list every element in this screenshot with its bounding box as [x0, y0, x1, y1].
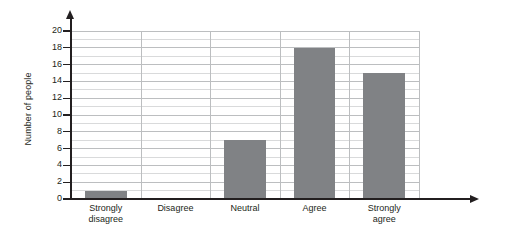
x-axis-label-line: Disagree — [141, 203, 211, 214]
y-axis-tick — [63, 64, 70, 65]
x-axis-label-line: Strongly — [71, 203, 141, 214]
y-axis-tick — [63, 198, 70, 199]
y-axis-tick-labels: 02468101214161820 — [10, 0, 62, 238]
y-axis-tick — [63, 165, 70, 166]
y-axis-tick — [63, 114, 70, 115]
y-axis-tick-label: 14 — [18, 76, 62, 85]
y-axis-line — [70, 18, 72, 200]
y-axis-tick-label: 8 — [18, 127, 62, 136]
bar — [224, 140, 266, 199]
gridline-vertical — [419, 31, 420, 199]
arrow-up-icon — [66, 10, 74, 19]
arrow-right-icon — [470, 195, 479, 203]
y-axis-tick-label: 16 — [18, 60, 62, 69]
y-axis-tick-label: 0 — [18, 194, 62, 203]
y-axis-tick — [63, 131, 70, 132]
x-axis-line — [70, 198, 472, 200]
x-axis-category-label: Stronglydisagree — [71, 203, 141, 225]
y-axis-tick-label: 6 — [18, 144, 62, 153]
x-axis-label-line: Neutral — [210, 203, 280, 214]
x-axis-category-label: Disagree — [141, 203, 211, 214]
y-axis-tick — [63, 148, 70, 149]
x-axis-category-label: Agree — [280, 203, 350, 214]
bar-series — [71, 31, 419, 199]
x-axis-label-line: agree — [349, 214, 419, 225]
x-axis-label-line: disagree — [71, 214, 141, 225]
x-axis-category-labels: StronglydisagreeDisagreeNeutralAgreeStro… — [71, 203, 419, 237]
y-axis-tick-label: 10 — [18, 110, 62, 119]
y-axis-tick — [63, 98, 70, 99]
x-axis-label-line: Strongly — [349, 203, 419, 214]
bar-chart: Number of people 02468101214161820 Stron… — [0, 0, 517, 238]
y-axis-tick-label: 12 — [18, 93, 62, 102]
y-axis-tick — [63, 47, 70, 48]
y-axis-tick — [63, 182, 70, 183]
x-axis-label-line: Agree — [280, 203, 350, 214]
y-axis-tick — [63, 81, 70, 82]
y-axis-tick-label: 20 — [18, 26, 62, 35]
x-axis-category-label: Neutral — [210, 203, 280, 214]
bar — [294, 48, 336, 199]
x-axis-category-label: Stronglyagree — [349, 203, 419, 225]
y-axis-tick-label: 18 — [18, 43, 62, 52]
y-axis-tick — [63, 30, 70, 31]
y-axis-tick-label: 2 — [18, 177, 62, 186]
y-axis-tick-label: 4 — [18, 160, 62, 169]
bar — [363, 73, 405, 199]
plot-area — [71, 31, 419, 199]
